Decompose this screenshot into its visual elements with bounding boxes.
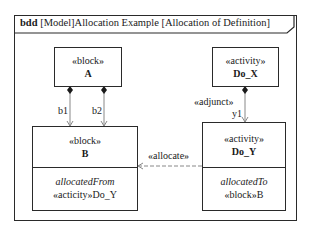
diagram-kind: bdd	[20, 17, 38, 28]
do-y-allocated-to-compartment: allocatedTo «block»B	[203, 167, 285, 201]
block-b-allocated-from-compartment: allocatedFrom «acticity»Do_Y	[33, 167, 137, 201]
allocated-to-label: allocatedTo	[203, 175, 285, 188]
role-label-b1: b1	[58, 105, 68, 116]
block-a-stereotype: «block»	[55, 55, 121, 67]
activity-do-x[interactable]: «activity» Do_X	[212, 47, 279, 87]
activity-do-y[interactable]: «activity» Do_Y allocatedTo «block»B	[202, 122, 286, 211]
do-y-name: Do_Y	[203, 145, 285, 158]
allocated-from-label: allocatedFrom	[33, 175, 137, 188]
block-a-name: A	[55, 67, 121, 80]
do-x-name: Do_X	[213, 67, 278, 80]
role-label-y1: y1	[232, 108, 242, 119]
allocated-to-value: «block»B	[203, 188, 285, 201]
block-b[interactable]: «block» B allocatedFrom «acticity»Do_Y	[32, 126, 138, 211]
block-a[interactable]: «block» A	[54, 47, 122, 87]
frame-title: bdd [Model]Allocation Example [Allocatio…	[20, 17, 270, 28]
allocated-from-value: «acticity»Do_Y	[33, 188, 137, 201]
allocate-stereotype-label: «allocate»	[148, 150, 189, 161]
adjunct-stereotype-label: «adjunct»	[194, 96, 233, 107]
block-b-stereotype: «block»	[33, 135, 137, 147]
allocate-dependency[interactable]	[138, 163, 202, 169]
do-x-stereotype: «activity»	[213, 55, 278, 67]
block-b-name: B	[33, 147, 137, 160]
diagram-title: [Model]Allocation Example [Allocation of…	[40, 17, 270, 28]
do-y-stereotype: «activity»	[203, 133, 285, 145]
composition-y1[interactable]	[242, 86, 248, 122]
role-label-b2: b2	[92, 105, 102, 116]
